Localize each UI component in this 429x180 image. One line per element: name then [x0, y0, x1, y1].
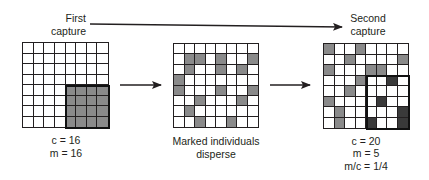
- grid-cell: [34, 64, 45, 75]
- grid-cell: [356, 86, 367, 97]
- grid-cell: [216, 117, 227, 127]
- grid-cell: [206, 75, 217, 85]
- grid-cell: [335, 76, 346, 87]
- grid-cell: [345, 86, 356, 97]
- grid-cell: [324, 44, 335, 55]
- grid-cell: [34, 43, 45, 54]
- grid-cell: [97, 75, 108, 86]
- grid-cell: [227, 96, 238, 106]
- grid-cell: [227, 117, 238, 127]
- disperse-label-2: disperse: [166, 148, 266, 160]
- grid-cell: [76, 64, 87, 75]
- grid-cell: [366, 76, 377, 87]
- grid-cell: [324, 107, 335, 118]
- grid-cell: [216, 65, 227, 75]
- grid-cell: [97, 117, 108, 128]
- grid-cell: [44, 75, 55, 86]
- grid-cell: [345, 118, 356, 129]
- grid-cell: [174, 86, 185, 96]
- top-arrow: [90, 24, 342, 27]
- grid-cell: [185, 65, 196, 75]
- grid-cell: [335, 97, 346, 108]
- grid-cell: [76, 106, 87, 117]
- grid-cell: [87, 75, 98, 86]
- grid-cell: [87, 106, 98, 117]
- grid-cell: [23, 85, 34, 96]
- grid-cell: [387, 97, 398, 108]
- grid-cell: [23, 117, 34, 128]
- second-capture-label-1: Second: [346, 12, 390, 24]
- grid-cell: [237, 106, 248, 116]
- grid-cell: [356, 97, 367, 108]
- grid-cell: [335, 44, 346, 55]
- grid-cell: [23, 75, 34, 86]
- grid-cell: [398, 118, 409, 129]
- grid-cell: [66, 96, 77, 107]
- first-capture-label-2: capture: [46, 25, 86, 37]
- grid-cell: [195, 96, 206, 106]
- grid-cell: [55, 75, 66, 86]
- grid-cell: [195, 54, 206, 64]
- grid-cell: [206, 96, 217, 106]
- grid-cell: [335, 55, 346, 66]
- disperse-label-1: Marked individuals: [166, 135, 266, 147]
- second-capture-label-2: capture: [346, 25, 390, 37]
- grid-cell: [55, 117, 66, 128]
- grid-cell: [23, 106, 34, 117]
- grid-cell: [34, 117, 45, 128]
- disperse-grid: [173, 43, 259, 128]
- grid-cell: [185, 86, 196, 96]
- grid-cell: [195, 44, 206, 54]
- grid-cell: [206, 54, 217, 64]
- grid-cell: [345, 55, 356, 66]
- grid-cell: [377, 97, 388, 108]
- grid-cell: [23, 54, 34, 65]
- grid-cell: [44, 43, 55, 54]
- grid-cell: [366, 65, 377, 76]
- grid-cell: [66, 75, 77, 86]
- grid-cell: [216, 44, 227, 54]
- grid-cell: [237, 86, 248, 96]
- grid-cell: [34, 75, 45, 86]
- grid-cell: [248, 65, 259, 75]
- grid-cell: [248, 54, 259, 64]
- grid-cell: [87, 64, 98, 75]
- grid-cell: [356, 44, 367, 55]
- grid-cell: [366, 55, 377, 66]
- grid-cell: [206, 117, 217, 127]
- second-c-value: c = 20: [330, 135, 402, 147]
- grid-cell: [206, 44, 217, 54]
- grid-cell: [174, 117, 185, 127]
- grid-cell: [174, 65, 185, 75]
- grid-cell: [227, 54, 238, 64]
- first-c-value: c = 16: [36, 134, 96, 146]
- grid-cell: [248, 86, 259, 96]
- grid-cell: [356, 107, 367, 118]
- grid-cell: [237, 44, 248, 54]
- grid-cell: [34, 96, 45, 107]
- grid-cell: [387, 55, 398, 66]
- grid-cell: [216, 86, 227, 96]
- grid-cell: [216, 54, 227, 64]
- grid-cell: [87, 85, 98, 96]
- grid-cell: [345, 65, 356, 76]
- grid-cell: [97, 54, 108, 65]
- grid-cell: [174, 54, 185, 64]
- grid-cell: [398, 65, 409, 76]
- grid-cell: [356, 65, 367, 76]
- grid-cell: [23, 96, 34, 107]
- grid-cell: [66, 43, 77, 54]
- grid-cell: [55, 96, 66, 107]
- grid-cell: [44, 117, 55, 128]
- grid-cell: [23, 64, 34, 75]
- grid-cell: [377, 118, 388, 129]
- grid-cell: [34, 54, 45, 65]
- grid-cell: [55, 64, 66, 75]
- grid-cell: [377, 44, 388, 55]
- second-ratio-value: m/c = 1/4: [330, 160, 402, 172]
- grid-cell: [398, 86, 409, 97]
- grid-cell: [185, 54, 196, 64]
- grid-cell: [248, 75, 259, 85]
- grid-cell: [185, 75, 196, 85]
- grid-cell: [44, 54, 55, 65]
